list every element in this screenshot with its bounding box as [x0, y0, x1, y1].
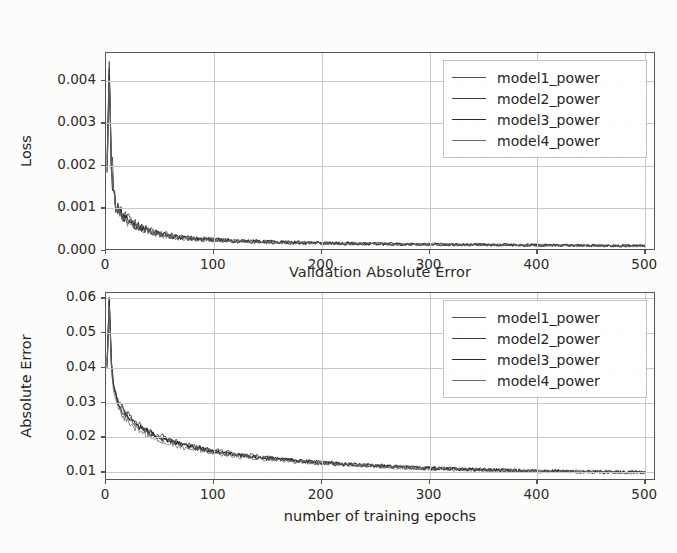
- x-tick-mark: [105, 250, 106, 254]
- legend-item-model3_power[interactable]: model3_power: [452, 349, 637, 370]
- x-tick-mark: [321, 480, 322, 484]
- legend-item-model4_power[interactable]: model4_power: [452, 370, 637, 391]
- legend-item-model1_power[interactable]: model1_power: [452, 307, 637, 328]
- gridline-horizontal: [106, 437, 654, 438]
- y-tick-label: 0.04: [0, 358, 96, 374]
- gridline-vertical: [430, 293, 431, 479]
- y-tick-label: 0.01: [0, 462, 96, 478]
- legend-label: model1_power: [497, 310, 600, 326]
- legend-label: model4_power: [497, 133, 600, 149]
- y-tick-label: 0.000: [0, 241, 96, 257]
- legend-line-swatch: [452, 317, 486, 318]
- legend-label: model3_power: [497, 112, 600, 128]
- x-tick-label: 200: [291, 486, 351, 502]
- y-tick-mark: [101, 402, 105, 403]
- x-tick-mark: [429, 250, 430, 254]
- legend-label: model1_power: [497, 70, 600, 86]
- x-tick-label: 500: [614, 486, 674, 502]
- legend-item-model1_power[interactable]: model1_power: [452, 67, 637, 88]
- panel-validation-loss: Validation Loss 0.0000.0010.0020.0030.00…: [0, 0, 677, 277]
- gridline-vertical: [322, 53, 323, 249]
- legend-label: model2_power: [497, 91, 600, 107]
- x-tick-mark: [429, 480, 430, 484]
- legend-item-model4_power[interactable]: model4_power: [452, 130, 637, 151]
- chart-title-validation-absolute-error: Validation Absolute Error: [105, 264, 655, 280]
- x-tick-mark: [536, 480, 537, 484]
- x-tick-mark: [536, 250, 537, 254]
- y-axis-label-absolute-error: Absolute Error: [18, 334, 34, 437]
- legend-validation-absolute-error: model1_powermodel2_powermodel3_powermode…: [443, 300, 647, 398]
- legend-label: model2_power: [497, 331, 600, 347]
- x-tick-label: 300: [399, 486, 459, 502]
- gridline-horizontal: [106, 166, 654, 167]
- gridline-vertical: [322, 293, 323, 479]
- x-tick-mark: [105, 480, 106, 484]
- y-tick-mark: [101, 80, 105, 81]
- legend-line-swatch: [452, 98, 486, 99]
- x-tick-mark: [644, 480, 645, 484]
- x-tick-mark: [213, 250, 214, 254]
- matplotlib-figure: Validation Loss 0.0000.0010.0020.0030.00…: [0, 0, 677, 553]
- legend-line-swatch: [452, 359, 486, 360]
- x-axis-label-epochs: number of training epochs: [105, 508, 655, 524]
- gridline-horizontal: [106, 208, 654, 209]
- x-tick-mark: [213, 480, 214, 484]
- x-tick-label: 100: [183, 486, 243, 502]
- y-tick-label: 0.06: [0, 288, 96, 304]
- y-tick-mark: [101, 297, 105, 298]
- y-tick-mark: [101, 332, 105, 333]
- x-tick-label: 400: [506, 486, 566, 502]
- y-tick-label: 0.02: [0, 427, 96, 443]
- x-tick-mark: [644, 250, 645, 254]
- figure-root: Validation Loss 0.0000.0010.0020.0030.00…: [0, 0, 677, 553]
- legend-item-model3_power[interactable]: model3_power: [452, 109, 637, 130]
- gridline-vertical: [214, 53, 215, 249]
- y-tick-mark: [101, 436, 105, 437]
- legend-line-swatch: [452, 140, 486, 141]
- y-tick-mark: [101, 207, 105, 208]
- y-tick-mark: [101, 367, 105, 368]
- legend-item-model2_power[interactable]: model2_power: [452, 88, 637, 109]
- legend-item-model2_power[interactable]: model2_power: [452, 328, 637, 349]
- y-tick-mark: [101, 122, 105, 123]
- x-tick-label: 0: [75, 486, 135, 502]
- gridline-vertical: [430, 53, 431, 249]
- gridline-horizontal: [106, 472, 654, 473]
- y-tick-label: 0.001: [0, 198, 96, 214]
- y-axis-label-loss: Loss: [18, 135, 34, 167]
- gridline-vertical: [214, 293, 215, 479]
- legend-validation-loss: model1_powermodel2_powermodel3_powermode…: [443, 60, 647, 158]
- legend-line-swatch: [452, 77, 486, 78]
- panel-validation-absolute-error: Validation Absolute Error 0.010.020.030.…: [0, 277, 677, 553]
- y-tick-label: 0.004: [0, 71, 96, 87]
- legend-label: model3_power: [497, 352, 600, 368]
- y-tick-label: 0.002: [0, 156, 96, 172]
- legend-line-swatch: [452, 338, 486, 339]
- y-tick-label: 0.03: [0, 393, 96, 409]
- x-tick-mark: [321, 250, 322, 254]
- y-tick-mark: [101, 165, 105, 166]
- gridline-horizontal: [106, 403, 654, 404]
- legend-label: model4_power: [497, 373, 600, 389]
- y-tick-label: 0.003: [0, 113, 96, 129]
- legend-line-swatch: [452, 119, 486, 120]
- y-tick-label: 0.05: [0, 323, 96, 339]
- y-tick-mark: [101, 471, 105, 472]
- legend-line-swatch: [452, 380, 486, 381]
